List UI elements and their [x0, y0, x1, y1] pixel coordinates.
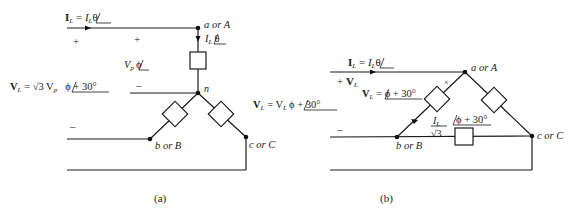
node-c	[244, 135, 249, 140]
line-current-label: IL = ILθ	[348, 56, 381, 70]
node-n	[196, 91, 201, 96]
three-phase-diagram: IL = ILθ a or A ILθ Vpϕ + + – – n b or B…	[0, 0, 575, 216]
minus-sign: –	[135, 79, 142, 91]
polarity-marker: ×	[444, 78, 449, 87]
minus-sign: –	[336, 123, 343, 135]
panel-b-delta-circuit: IL = ILθ a or A + VL VL = ϕ + 30° × – IL…	[330, 56, 564, 205]
node-c-label: c or C	[249, 139, 276, 150]
phase-current-angle: ϕ + 30°	[456, 114, 487, 125]
panel-a-wye-circuit: IL = ILθ a or A ILθ Vpϕ + + – – n b or B…	[10, 11, 337, 205]
node-c	[530, 134, 535, 139]
phase-bc-impedance	[455, 128, 473, 145]
node-n-label: n	[204, 83, 209, 94]
minus-sign: –	[69, 120, 76, 132]
plus-sign: +	[73, 35, 79, 47]
current-arrow-icon	[370, 70, 376, 75]
node-b	[395, 135, 400, 140]
plus-sign: +	[337, 75, 343, 87]
node-b	[148, 137, 153, 142]
node-a-label: a or A	[204, 19, 231, 30]
node-b-label: b or B	[155, 140, 182, 151]
node-a	[196, 26, 201, 31]
phase-current-arrow-icon	[196, 36, 201, 42]
node-a-label: a or A	[471, 62, 498, 73]
node-a	[463, 70, 468, 75]
line-voltage-symbol: VL	[346, 75, 358, 89]
phase-current-denominator: √3	[431, 128, 442, 139]
node-c-label: c or C	[537, 130, 564, 141]
plus-sign: +	[134, 33, 140, 45]
phase-a-impedance	[190, 52, 206, 69]
caption-b: (b)	[380, 192, 393, 205]
current-arrow-icon	[85, 26, 91, 31]
node-b-label: b or B	[396, 140, 423, 151]
line-current-label: IL = ILθ	[65, 11, 98, 25]
caption-a: (a)	[154, 192, 167, 205]
